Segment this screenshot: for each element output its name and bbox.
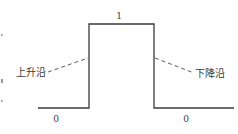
rising-edge-label: 上升沿 bbox=[16, 67, 46, 78]
low-level-label-right: 0 bbox=[183, 114, 189, 124]
falling-edge-leader bbox=[155, 58, 194, 73]
high-level-label: 1 bbox=[116, 11, 122, 21]
edge-artifacts bbox=[1, 34, 3, 102]
rising-edge-leader bbox=[48, 58, 88, 72]
pulse-diagram: 1 上升沿 下降沿 0 0 bbox=[0, 0, 238, 134]
pulse-waveform bbox=[38, 24, 234, 108]
falling-edge-label: 下降沿 bbox=[195, 67, 225, 79]
low-level-label-left: 0 bbox=[53, 114, 59, 124]
